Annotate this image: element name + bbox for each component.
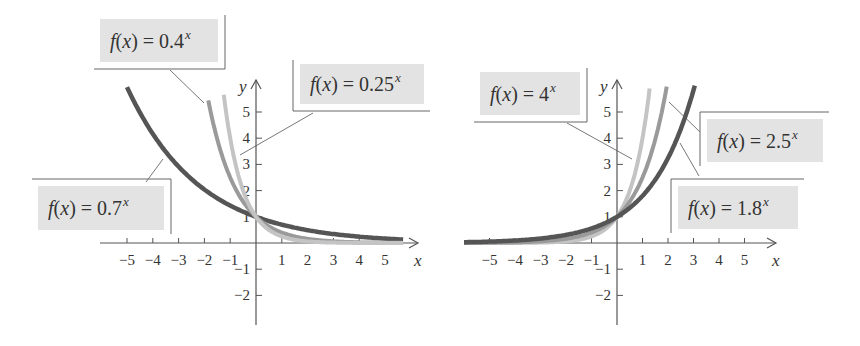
function-label-l025: f(x) = 0.25x	[240, 60, 430, 155]
x-tick-label: −2	[558, 252, 574, 268]
left-panel-decreasing-exponentials: f(x) = 0.7xf(x) = 0.4xf(x) = 0.25x−5−4−3…	[32, 15, 430, 325]
function-label-l07: f(x) = 0.7x	[32, 159, 171, 234]
x-tick-label: 4	[715, 252, 723, 268]
x-tick-label: 3	[330, 252, 338, 268]
y-tick-label: 3	[604, 156, 612, 172]
x-tick-label: −4	[145, 252, 161, 268]
x-tick-label: 5	[741, 252, 749, 268]
x-tick-label: 3	[690, 252, 698, 268]
function-label-l04: f(x) = 0.4x	[94, 15, 225, 103]
y-tick-label: −1	[234, 261, 250, 277]
x-tick-label: −5	[119, 252, 135, 268]
x-tick-label: 2	[304, 252, 312, 268]
exponential-function-graphs: f(x) = 0.7xf(x) = 0.4xf(x) = 0.25x−5−4−3…	[0, 0, 860, 346]
y-axis-label: y	[598, 77, 608, 96]
function-formula: f(x) = 0.25x	[310, 70, 401, 96]
y-tick-label: 2	[604, 183, 612, 199]
function-formula: f(x) = 4x	[490, 80, 556, 106]
function-formula: f(x) = 1.8x	[688, 194, 769, 220]
curve-f-x-0-25-x	[224, 95, 403, 243]
y-tick-label: −2	[595, 287, 611, 303]
y-tick-label: 4	[243, 130, 251, 146]
function-formula: f(x) = 0.7x	[48, 194, 129, 220]
x-tick-label: −2	[196, 252, 212, 268]
function-formula: f(x) = 2.5x	[717, 127, 798, 153]
curve-f-x-0-7-x	[127, 87, 403, 240]
right-panel-increasing-exponentials: f(x) = 4xf(x) = 2.5xf(x) = 1.8x−5−4−3−2−…	[464, 68, 829, 325]
y-tick-label: 3	[243, 156, 251, 172]
y-tick-label: 4	[604, 130, 612, 146]
function-formula: f(x) = 0.4x	[110, 27, 191, 53]
function-label-l25: f(x) = 2.5x	[669, 102, 829, 166]
leader-line	[567, 123, 632, 159]
x-tick-label: −5	[482, 252, 498, 268]
x-tick-label: 1	[639, 252, 647, 268]
x-axis-label: x	[771, 251, 780, 270]
leader-line	[240, 113, 313, 155]
x-tick-label: 1	[278, 252, 286, 268]
leader-line	[170, 70, 204, 103]
leader-line	[680, 143, 699, 176]
y-axis-label: y	[237, 77, 247, 96]
y-tick-label: −2	[234, 287, 250, 303]
y-tick-label: 5	[243, 104, 251, 120]
x-tick-label: −3	[533, 252, 549, 268]
x-tick-label: −4	[507, 252, 523, 268]
y-tick-label: −1	[595, 261, 611, 277]
x-tick-label: 2	[664, 252, 672, 268]
y-tick-label: 5	[604, 104, 612, 120]
x-tick-label: −3	[171, 252, 187, 268]
chart-canvas: f(x) = 0.7xf(x) = 0.4xf(x) = 0.25x−5−4−3…	[0, 0, 860, 346]
x-tick-label: 4	[355, 252, 363, 268]
x-tick-label: 5	[381, 252, 389, 268]
x-axis-label: x	[413, 251, 422, 270]
